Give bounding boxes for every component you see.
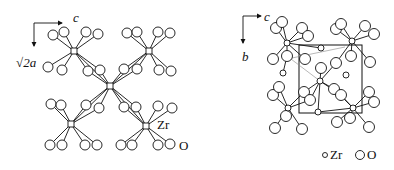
legend-o-symbol — [356, 151, 365, 160]
right-legend-symbols — [323, 151, 365, 160]
left-axis-sqrt2a-label: √2a — [16, 56, 36, 69]
left-o-label: O — [179, 139, 188, 152]
right-axis-c-label: c — [264, 10, 270, 23]
left-zr-label: Zr — [157, 118, 169, 131]
right-axis-arrows — [243, 16, 261, 43]
legend-zr-symbol — [323, 153, 328, 158]
legend-zr-label: Zr — [330, 148, 342, 161]
crystal-structure-figure: c √2a Zr O c b Zr O — [0, 0, 394, 170]
legend-o-label: O — [367, 148, 376, 161]
right-panel — [243, 16, 380, 160]
left-panel — [34, 23, 177, 150]
structure-drawing — [0, 0, 394, 170]
right-axis-b-label: b — [242, 50, 249, 63]
right-zirconium-atoms — [280, 38, 356, 115]
left-axis-c-label: c — [73, 11, 79, 24]
